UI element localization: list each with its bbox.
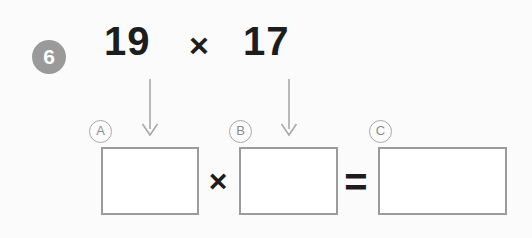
circle-label-a: A [89,120,112,143]
expression-factor-2: 17 [243,18,290,64]
worksheet-problem: 6 19 × 17 A B C × = [0,0,532,238]
arrow-down-icon [139,79,161,137]
expression-factor-1: 19 [104,18,151,64]
question-number-badge: 6 [32,40,66,74]
answer-box-b[interactable] [239,147,338,215]
expression-multiply-operator: × [189,22,210,68]
answer-box-a[interactable] [101,147,199,215]
equation-multiply-operator: × [202,165,234,197]
answer-box-c[interactable] [378,147,507,215]
equation-equals-operator: = [338,162,374,202]
arrow-down-icon [278,79,300,137]
circle-label-c: C [369,120,392,143]
circle-label-b: B [229,120,252,143]
